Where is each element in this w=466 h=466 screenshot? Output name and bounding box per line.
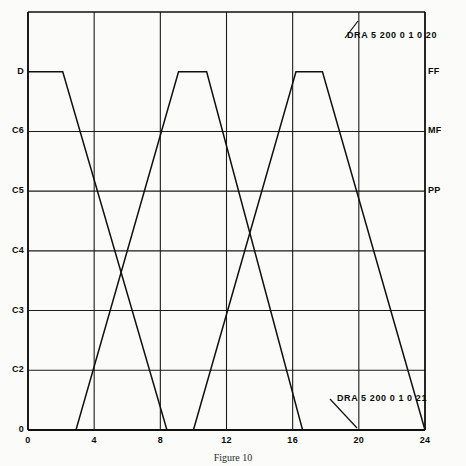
y-axis-left-tick-label: C3	[2, 306, 24, 315]
y-axis-right-tick-label: MF	[428, 126, 442, 135]
x-axis-tick-label: 8	[145, 436, 175, 445]
x-axis-tick-label: 12	[212, 436, 242, 445]
figure-caption: Figure 10	[0, 452, 466, 463]
y-axis-right-tick-label: FF	[428, 67, 440, 76]
y-axis-right-tick-label: PP	[428, 186, 441, 195]
x-axis-tick-label: 16	[278, 436, 308, 445]
y-axis-left-tick-label: C4	[2, 246, 24, 255]
annotation-leaders	[330, 21, 358, 428]
y-axis-left-tick-label: C2	[2, 365, 24, 374]
y-axis-left-tick-label: C6	[2, 126, 24, 135]
annotation-bottom: DRA 5 200 0 1 0 21	[337, 394, 427, 403]
figure-container: DC6C5C4C3C20 FFMFPP 04812162024 DRA 5 20…	[0, 0, 466, 466]
y-axis-left-tick-label: C5	[2, 186, 24, 195]
y-axis-left-tick-label: 0	[2, 425, 24, 434]
annotation-top: DRA 5 200 0 1 0 20	[347, 31, 437, 40]
x-axis-tick-label: 24	[410, 436, 440, 445]
y-axis-left-tick-label: D	[2, 67, 24, 76]
x-axis-tick-label: 20	[344, 436, 374, 445]
x-axis-tick-label: 4	[79, 436, 109, 445]
annotation-leader-line	[330, 399, 357, 428]
x-axis-tick-label: 0	[13, 436, 43, 445]
